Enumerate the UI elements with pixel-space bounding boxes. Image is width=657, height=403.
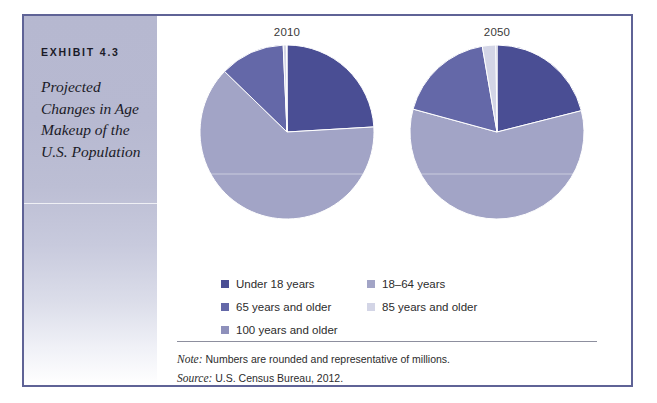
source-label: Source: — [177, 372, 212, 384]
source-row: Source: U.S. Census Bureau, 2012. — [177, 370, 597, 385]
exhibit-frame: EXHIBIT 4.3 Projected Changes in Age Mak… — [22, 14, 633, 387]
legend-item: 100 years and older — [221, 320, 338, 339]
exhibit-caption-panel: EXHIBIT 4.3 Projected Changes in Age Mak… — [24, 16, 157, 385]
pie-slice — [287, 45, 374, 132]
pie-chart-2010: 2010 — [187, 26, 387, 220]
pie-chart-2010-canvas — [199, 44, 375, 220]
charts-row: 2010 2050 — [157, 16, 631, 278]
pie-chart-2050-title: 2050 — [397, 26, 597, 38]
exhibit-title: Projected Changes in Age Makeup of the U… — [41, 76, 145, 162]
legend-item: Under 18 years — [221, 274, 338, 293]
legend-label-65-plus: 65 years and older — [236, 301, 331, 313]
legend-swatch-85-plus — [367, 303, 375, 311]
legend-item: 18–64 years — [367, 274, 477, 293]
legend-item: 85 years and older — [367, 297, 477, 316]
legend-swatch-100-plus — [221, 326, 229, 334]
pie-chart-2010-svg — [199, 44, 375, 220]
legend-label-100-plus: 100 years and older — [236, 324, 338, 336]
exhibit-notes: Note: Numbers are rounded and representa… — [177, 341, 597, 385]
pie-chart-2050-canvas — [409, 44, 585, 220]
note-row: Note: Numbers are rounded and representa… — [177, 351, 597, 367]
legend-item: 65 years and older — [221, 297, 338, 316]
legend-label-85-plus: 85 years and older — [382, 301, 477, 313]
legend-label-18-64: 18–64 years — [382, 278, 445, 290]
exhibit-inner: EXHIBIT 4.3 Projected Changes in Age Mak… — [24, 16, 631, 385]
caption-divider — [24, 203, 157, 204]
legend-column-right: 18–64 years 85 years and older — [367, 274, 477, 320]
pie-slice — [286, 45, 287, 132]
source-text: U.S. Census Bureau, 2012. — [212, 372, 343, 384]
note-label: Note: — [177, 353, 203, 365]
note-text: Numbers are rounded and representative o… — [203, 353, 450, 365]
notes-divider — [177, 341, 597, 342]
legend-swatch-65-plus — [221, 303, 229, 311]
pie-chart-2050-svg — [409, 44, 585, 220]
legend-swatch-under-18 — [221, 280, 229, 288]
exhibit-content: 2010 2050 Under 18 years — [157, 16, 631, 385]
exhibit-number: EXHIBIT 4.3 — [41, 46, 144, 58]
pie-chart-2050: 2050 — [397, 26, 597, 220]
pie-chart-2010-title: 2010 — [187, 26, 387, 38]
chart-legend: Under 18 years 65 years and older 100 ye… — [157, 274, 631, 336]
legend-label-under-18: Under 18 years — [236, 278, 315, 290]
legend-column-left: Under 18 years 65 years and older 100 ye… — [221, 274, 338, 343]
legend-swatch-18-64 — [367, 280, 375, 288]
